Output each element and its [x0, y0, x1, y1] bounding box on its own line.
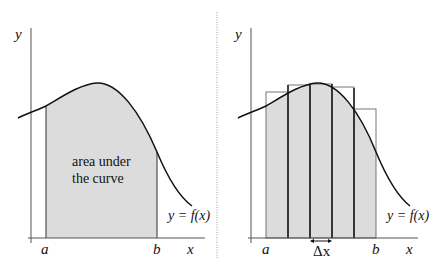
x-axis-label: x — [405, 241, 413, 257]
left-panel: y x a b y = f(x) area under the curve — [13, 26, 210, 257]
a-label: a — [41, 241, 49, 257]
area-label-line2: the curve — [72, 171, 124, 186]
area-label-line1: area under — [72, 154, 131, 169]
riemann-sum-diagram: y x a b y = f(x) area under the curve Δx — [0, 0, 443, 270]
b-label: b — [372, 241, 380, 257]
curve-label: y = f(x) — [385, 208, 429, 224]
x-axis-label: x — [186, 241, 194, 257]
area-under-curve-shaded — [266, 83, 376, 238]
b-label: b — [153, 241, 161, 257]
y-axis-label: y — [13, 26, 22, 42]
y-axis-label: y — [233, 26, 242, 42]
a-label: a — [262, 241, 270, 257]
curve-label: y = f(x) — [166, 208, 210, 224]
delta-x-label: Δx — [313, 243, 331, 259]
right-panel: Δx y x a b y = f(x) — [233, 26, 429, 259]
